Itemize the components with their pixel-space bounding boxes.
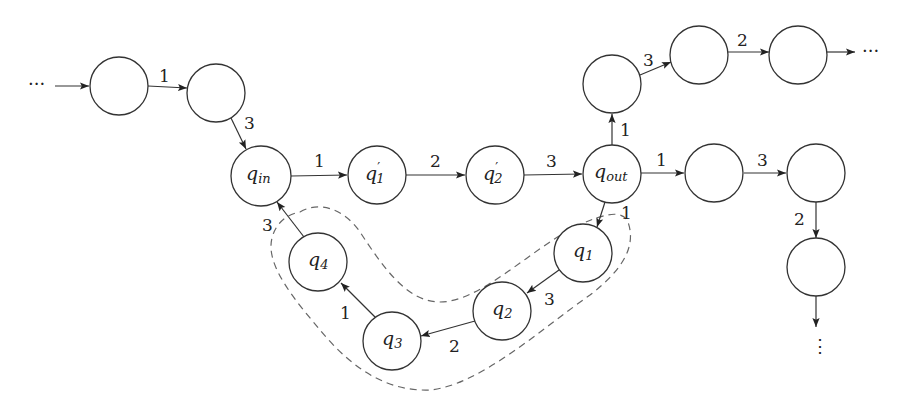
- edge-a-b: [148, 86, 187, 88]
- edge-qin-q1p: [291, 175, 347, 176]
- node-upper-2: [670, 26, 728, 84]
- node-upper-3: [769, 26, 827, 84]
- edge-label-q4-qin: 3: [262, 215, 273, 235]
- node-right-2: [787, 144, 845, 202]
- edge-q4-qin: [277, 202, 304, 237]
- edge-label-r2-r3: 2: [794, 209, 805, 229]
- edge-label-q1p-q2p: 2: [430, 151, 441, 171]
- edge-label-u1-u2: 3: [643, 50, 654, 70]
- edge-label-qout-q1: 1: [621, 203, 632, 223]
- edge-label-q1-q2: 3: [544, 289, 555, 309]
- node-a: [90, 57, 148, 115]
- node-right-1: [685, 144, 743, 202]
- edge-label-qin-q1p: 1: [314, 151, 325, 171]
- edge-label-q2-q3: 2: [449, 336, 460, 356]
- edge-label-q3-q4: 1: [340, 303, 351, 323]
- edges: [55, 52, 855, 336]
- ellipsis-bottom: ⋮: [811, 335, 829, 356]
- state-diagram: 1 3 1 2 3 1 3 2 1 3 2 1 3 2 1 3 qin: [0, 0, 909, 410]
- node-right-3: [787, 238, 845, 296]
- edge-label-qout-r1: 1: [656, 150, 667, 170]
- edge-label-b-qin: 3: [244, 113, 255, 133]
- ellipsis-left: ···: [28, 73, 45, 94]
- edge-label-q2p-qout: 3: [546, 151, 557, 171]
- node-upper-1: [583, 55, 641, 113]
- edge-label-qout-u1: 1: [620, 120, 631, 140]
- edge-q2p-qout: [524, 174, 582, 175]
- edge-label-r1-r2: 3: [757, 150, 768, 170]
- ellipsis-right: ···: [862, 40, 879, 61]
- edge-q2-q3: [421, 321, 475, 336]
- nodes: [90, 26, 845, 370]
- edge-label-a-b: 1: [159, 66, 170, 86]
- edge-qout-q1: [597, 202, 605, 227]
- edge-label-u2-u3: 2: [737, 30, 748, 50]
- node-b: [187, 64, 245, 122]
